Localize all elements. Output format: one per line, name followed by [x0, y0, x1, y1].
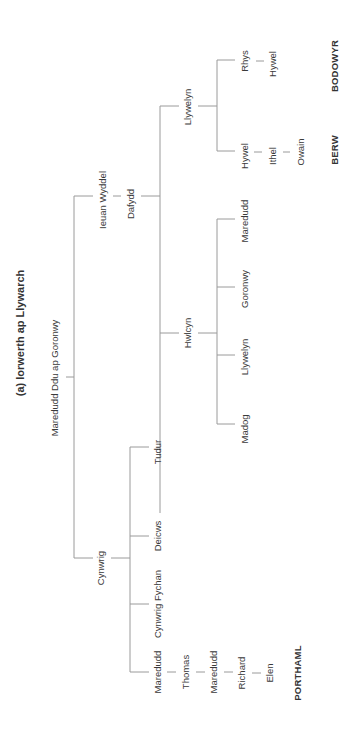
person-elen: Elen [265, 663, 275, 682]
person-maredudd-porthaml-2: Maredudd [209, 651, 219, 694]
person-goronwy: Goronwy [240, 270, 250, 308]
person-tudur: Tudur [153, 440, 163, 464]
person-maredudd-son-of-hwlcyn: Maredudd [240, 200, 250, 243]
person-dafydd: Dafydd [126, 189, 136, 219]
person-hywel-bodowyr: Hywel [268, 51, 278, 77]
person-hywel-berw: Hywel [240, 143, 250, 169]
person-maredudd-porthaml-1: Maredudd [153, 651, 163, 694]
person-owain: Owain [296, 139, 306, 166]
diagram-title: (a) Iorwerth ap Llywarch [15, 270, 25, 397]
place-porthaml: PORTHAML [293, 645, 303, 700]
person-ieuan-wyddel: Ieuan Wyddel [98, 171, 108, 229]
person-llywelyn-son-of-hwlcyn: Llywelyn [240, 339, 250, 375]
person-ithel: Ithel [268, 147, 278, 165]
place-berw: BERW [330, 135, 340, 165]
person-rhys: Rhys [240, 50, 250, 72]
person-madog: Madog [240, 414, 250, 443]
person-deicws: Deicws [153, 521, 163, 552]
person-cynwrig-fychan: Cynwrig Fychan [153, 570, 163, 638]
person-llywelyn: Llywelyn [183, 89, 193, 125]
person-richard: Richard [237, 657, 247, 690]
person-hwlcyn: Hwlcyn [183, 318, 193, 349]
person-cynwrig: Cynwrig [96, 551, 106, 585]
person-thomas: Thomas [181, 655, 191, 689]
person-maredudd-ddu-ap-goronwy: Maredudd Ddu ap Goronwy [50, 320, 60, 437]
place-bodowyr: BODOWYR [330, 40, 340, 92]
